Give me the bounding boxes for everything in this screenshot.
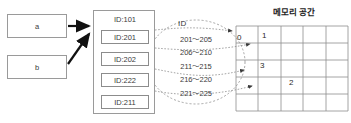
memory-slot-label-0: 0 (237, 33, 241, 42)
object-element-3[interactable]: ID:211 (101, 95, 149, 109)
object-id-label: ID:101 (94, 15, 156, 24)
object-element-0[interactable]: ID:201 (101, 30, 149, 44)
id-bubble-title: ID (178, 19, 187, 28)
id-range-row-2: 211～215 (163, 60, 229, 71)
variable-box-a[interactable]: a (7, 14, 67, 38)
memory-space-title: 메모리 공간 (252, 5, 336, 17)
object-element-2[interactable]: ID:222 (101, 73, 149, 87)
memory-slot-label-3: 3 (260, 61, 264, 70)
id-range-row-3: 216～220 (163, 73, 229, 84)
diagram-canvas: a b ID:101 ID:201 ID:202 ID:222 ID:211 I… (0, 0, 351, 123)
variable-box-b[interactable]: b (7, 55, 67, 79)
memory-slot-label-2: 2 (289, 78, 293, 87)
id-range-row-0: 201～205 (163, 33, 229, 44)
arrow-b-to-object (68, 34, 89, 64)
object-container: ID:101 ID:201 ID:202 ID:222 ID:211 (93, 10, 155, 114)
connector-elem0-to-slot0 (155, 28, 232, 31)
memory-slot-label-1: 1 (262, 31, 266, 40)
id-range-row-4: 221～225 (163, 87, 229, 98)
object-element-1[interactable]: ID:202 (101, 52, 149, 66)
id-range-row-1: 206～210 (163, 46, 229, 57)
memory-grid (236, 26, 348, 111)
